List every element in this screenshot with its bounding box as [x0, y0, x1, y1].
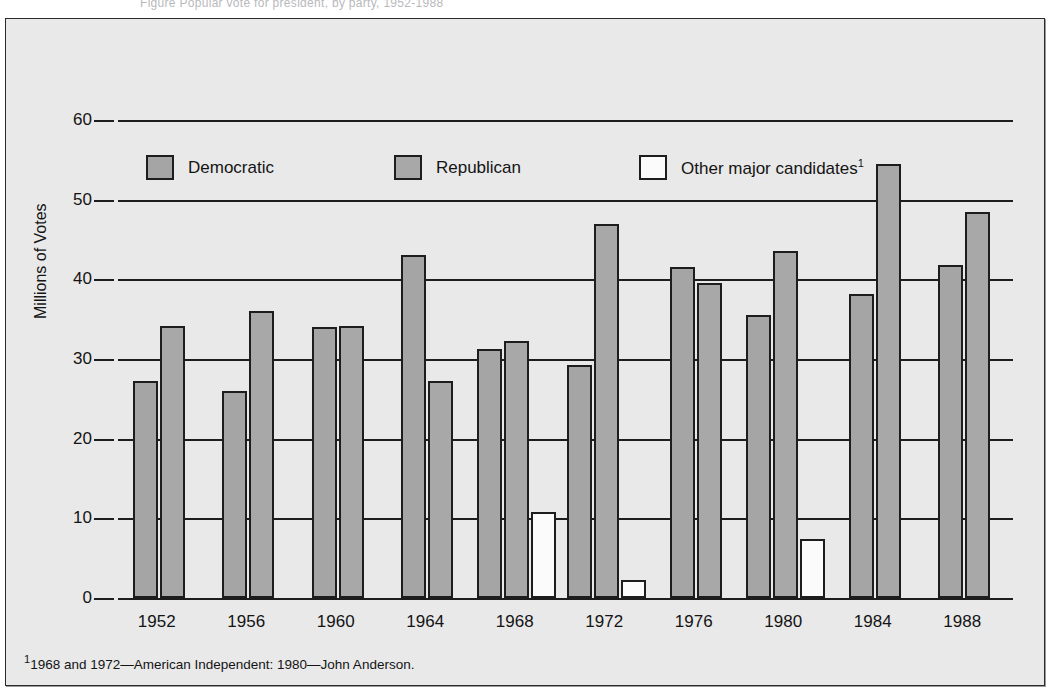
- y-tick-label-10: 10: [73, 508, 92, 528]
- y-tick-label-20: 20: [73, 429, 92, 449]
- bar-group-1984: [834, 120, 924, 598]
- bar-other-1968: [531, 512, 556, 598]
- bar-group-1960: [297, 120, 387, 598]
- y-axis-title: Millions of Votes: [32, 203, 50, 319]
- bar-rep-1960: [339, 326, 364, 598]
- bar-rep-1964: [428, 381, 453, 598]
- x-tick-label-1964: 1964: [406, 612, 444, 632]
- bar-group-1972: [566, 120, 656, 598]
- bar-rep-1952: [160, 326, 185, 598]
- bar-dem-1960: [312, 327, 337, 598]
- x-tick-label-1972: 1972: [585, 612, 623, 632]
- x-tick-label-1976: 1976: [675, 612, 713, 632]
- bar-dem-1988: [938, 265, 963, 598]
- x-tick-label-1968: 1968: [496, 612, 534, 632]
- bar-group-1956: [208, 120, 298, 598]
- bars-container: [118, 120, 1013, 598]
- bar-rep-1956: [249, 311, 274, 598]
- chart-page: Figure Popular vote for president, by pa…: [0, 0, 1050, 693]
- x-tick-label-1980: 1980: [764, 612, 802, 632]
- bar-other-1980: [800, 539, 825, 598]
- y-tick-dash-40: [94, 279, 114, 281]
- y-tick-dash-10: [94, 518, 114, 520]
- bar-other-1972: [621, 580, 646, 598]
- bar-dem-1952: [133, 381, 158, 598]
- bar-rep-1976: [697, 283, 722, 598]
- y-tick-label-50: 50: [73, 190, 92, 210]
- footnote: 11968 and 1972—American Independent: 198…: [24, 653, 414, 672]
- bar-dem-1984: [849, 294, 874, 598]
- y-tick-dash-30: [94, 359, 114, 361]
- footnote-text: 1968 and 1972—American Independent: 1980…: [30, 656, 414, 671]
- y-tick-dash-0: [94, 598, 114, 600]
- x-tick-label-1960: 1960: [317, 612, 355, 632]
- y-tick-label-30: 30: [73, 349, 92, 369]
- chart-frame: Millions of Votes DemocraticRepublicanOt…: [5, 18, 1045, 686]
- y-tick-label-40: 40: [73, 269, 92, 289]
- bar-rep-1984: [876, 164, 901, 598]
- bar-dem-1976: [670, 267, 695, 598]
- y-tick-dash-20: [94, 439, 114, 441]
- bar-group-1964: [387, 120, 477, 598]
- x-tick-label-1984: 1984: [854, 612, 892, 632]
- y-tick-dash-50: [94, 200, 114, 202]
- y-tick-label-0: 0: [83, 588, 92, 608]
- bar-dem-1964: [401, 255, 426, 598]
- bar-dem-1968: [477, 349, 502, 598]
- gridline-0: [118, 598, 1013, 600]
- bar-group-1952: [118, 120, 208, 598]
- y-tick-label-60: 60: [73, 110, 92, 130]
- x-tick-label-1988: 1988: [943, 612, 981, 632]
- bar-group-1968: [476, 120, 566, 598]
- top-caption: Figure Popular vote for president, by pa…: [0, 0, 1050, 18]
- bar-dem-1972: [567, 365, 592, 598]
- bar-rep-1972: [594, 224, 619, 598]
- bar-group-1976: [655, 120, 745, 598]
- bar-group-1988: [924, 120, 1014, 598]
- x-tick-label-1956: 1956: [227, 612, 265, 632]
- bar-rep-1968: [504, 341, 529, 598]
- plot-area: 0102030405060 19521956196019641968197219…: [118, 120, 1013, 598]
- y-tick-dash-60: [94, 120, 114, 122]
- x-tick-label-1952: 1952: [138, 612, 176, 632]
- bar-rep-1988: [965, 212, 990, 598]
- bar-rep-1980: [773, 251, 798, 598]
- bar-dem-1980: [746, 315, 771, 598]
- bar-dem-1956: [222, 391, 247, 598]
- bar-group-1980: [745, 120, 835, 598]
